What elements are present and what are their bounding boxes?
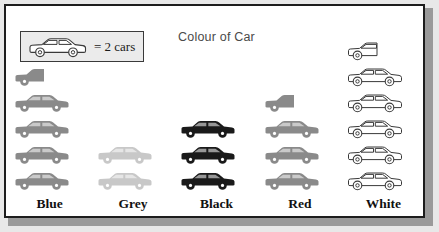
pictograph-column-black	[179, 116, 253, 194]
axis-label-grey: Grey	[96, 196, 170, 212]
car-icon	[346, 90, 420, 116]
pictograph-column-red	[263, 90, 337, 194]
car-icon-half	[346, 38, 420, 64]
car-icon	[96, 142, 170, 168]
axis-label-blue: Blue	[13, 196, 87, 212]
car-icon	[96, 168, 170, 194]
car-icon	[13, 142, 87, 168]
car-icon	[179, 168, 253, 194]
car-icon	[346, 116, 420, 142]
pictograph-column-white	[346, 38, 420, 194]
car-icon	[346, 142, 420, 168]
car-icon	[263, 168, 337, 194]
car-icon	[346, 168, 420, 194]
pictograph-column-grey	[96, 142, 170, 194]
car-icon	[263, 142, 337, 168]
car-icon	[13, 168, 87, 194]
car-icon	[263, 116, 337, 142]
pictograph-column-blue	[13, 64, 87, 194]
axis-label-red: Red	[263, 196, 337, 212]
axis-label-white: White	[346, 196, 420, 212]
car-icon-half	[13, 64, 87, 90]
pictograph-chart: Colour of Car = 2 cars BlueGreyBlackRedW…	[4, 4, 425, 218]
car-icon	[13, 90, 87, 116]
car-icon-half	[263, 90, 337, 116]
car-icon	[346, 64, 420, 90]
car-icon	[179, 142, 253, 168]
car-icon	[13, 116, 87, 142]
category-axis: BlueGreyBlackRedWhite	[8, 196, 425, 218]
plot-area	[8, 40, 425, 194]
axis-label-black: Black	[179, 196, 253, 212]
car-icon	[179, 116, 253, 142]
